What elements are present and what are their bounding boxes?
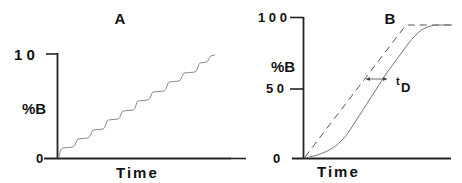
panel-b-td-arrow-left-icon: [366, 77, 370, 81]
figure: A 1 0 0 %B Time B 1 0 0 5 0 0 %B Time t: [0, 0, 462, 183]
panel-a-xlabel: Time: [116, 164, 159, 181]
panel-b: B 1 0 0 5 0 0 %B Time t D: [231, 10, 452, 180]
panel-b-actual-gradient: [305, 25, 452, 158]
panel-b-td-t: t: [396, 75, 400, 87]
panel-b-td-arrow-right-icon: [383, 77, 387, 81]
panel-b-programmed-gradient: [305, 25, 452, 157]
panel-b-ytick-100: 1 0 0: [258, 10, 287, 25]
panel-b-ylabel: %B: [271, 58, 295, 75]
panel-a-title: A: [115, 10, 126, 27]
panel-a-ytick-10: 1 0: [14, 46, 35, 63]
panel-b-xlabel: Time: [317, 163, 360, 180]
panel-b-ytick-50: 5 0: [266, 81, 284, 96]
panel-b-ytick-0: 0: [273, 151, 280, 166]
panel-b-title: B: [385, 10, 396, 27]
panel-a-step-curve: [59, 55, 215, 158]
panel-a-ylabel: %B: [22, 100, 46, 117]
panel-b-td-sub: D: [401, 80, 410, 95]
panel-a: A 1 0 0 %B Time: [14, 10, 231, 181]
panel-a-ytick-0: 0: [36, 151, 43, 166]
